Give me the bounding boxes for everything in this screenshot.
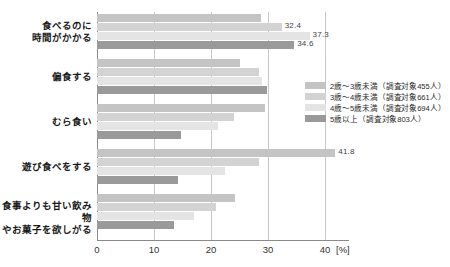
bar (97, 23, 282, 31)
bar-row: 41.8 (97, 149, 329, 157)
bar (97, 59, 240, 67)
plot-area: 32.437.334.641.8 (97, 12, 329, 240)
bar (97, 14, 261, 22)
bar-group (97, 104, 329, 140)
bar (97, 176, 178, 184)
bar (97, 149, 335, 157)
category-label: 偏食する (0, 71, 92, 83)
bar-row (97, 86, 329, 94)
legend-swatch (305, 82, 326, 89)
legend-item[interactable]: 5歳以上（調査対象803人） (305, 113, 447, 123)
category-label: 食べるのに 時間がかかる (0, 20, 92, 44)
bar (97, 86, 267, 94)
bar-value-label: 34.6 (297, 39, 313, 48)
bar-group (97, 194, 329, 230)
bar-group: 32.437.334.6 (97, 14, 329, 50)
legend-label: 4歳～5歳未満（調査対象694人） (330, 102, 445, 113)
bar-row (97, 77, 329, 85)
bar-value-label: 41.8 (338, 147, 354, 156)
bar-row (97, 68, 329, 76)
x-axis-line (97, 240, 349, 241)
bar-row: 34.6 (97, 41, 329, 49)
bar (97, 122, 218, 130)
bar-chart: 32.437.334.641.8 食べるのに 時間がかかる偏食するむら食い遊び食… (0, 0, 450, 267)
x-tick-label: 20 (206, 244, 217, 255)
bar-row (97, 122, 329, 130)
legend: 2歳～3歳未満（調査対象455人）3歳～4歳未満（調査対象661人）4歳～5歳未… (305, 80, 447, 124)
legend-label: 5歳以上（調査対象803人） (330, 113, 426, 124)
x-tick-label: 30 (263, 244, 274, 255)
bar (97, 41, 294, 49)
x-axis-unit-label: [%] (336, 244, 350, 255)
x-tick-label: 10 (149, 244, 160, 255)
bar-row (97, 212, 329, 220)
bar (97, 203, 216, 211)
bar-value-label: 37.3 (313, 30, 329, 39)
bar-row (97, 203, 329, 211)
bar (97, 158, 259, 166)
legend-swatch (305, 104, 326, 111)
legend-item[interactable]: 4歳～5歳未満（調査対象694人） (305, 102, 447, 112)
legend-item[interactable]: 3歳～4歳未満（調査対象661人） (305, 91, 447, 101)
legend-swatch (305, 93, 326, 100)
bar (97, 194, 235, 202)
bar-row (97, 176, 329, 184)
x-tick-label: 0 (94, 244, 99, 255)
bar (97, 77, 262, 85)
bar (97, 167, 225, 175)
x-tick-label: 40 (320, 244, 331, 255)
bar-group: 41.8 (97, 149, 329, 185)
bar-group (97, 59, 329, 95)
bar (97, 221, 174, 229)
bar-row (97, 167, 329, 175)
category-label: むら食い (0, 116, 92, 128)
bar-row (97, 113, 329, 121)
bar (97, 131, 181, 139)
bar-row (97, 131, 329, 139)
category-label: 食事よりも甘い飲み物 やお菓子を欲しがる (0, 200, 92, 236)
bar (97, 113, 234, 121)
bar-row (97, 158, 329, 166)
bar-row: 37.3 (97, 32, 329, 40)
legend-label: 2歳～3歳未満（調査対象455人） (330, 80, 445, 91)
legend-item[interactable]: 2歳～3歳未満（調査対象455人） (305, 80, 447, 90)
bar (97, 212, 194, 220)
legend-swatch (305, 115, 326, 122)
bar-row (97, 194, 329, 202)
bar (97, 104, 265, 112)
bar (97, 68, 259, 76)
bar-value-label: 32.4 (285, 21, 301, 30)
bar-row: 32.4 (97, 23, 329, 31)
bar-row (97, 59, 329, 67)
legend-label: 3歳～4歳未満（調査対象661人） (330, 91, 445, 102)
category-label: 遊び食べをする (0, 161, 92, 173)
bar (97, 32, 310, 40)
bar-row (97, 221, 329, 229)
bar-row (97, 104, 329, 112)
